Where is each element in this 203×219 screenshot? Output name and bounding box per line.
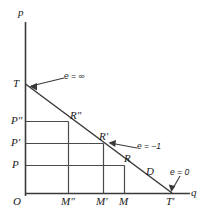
- origin-label: O: [13, 196, 21, 207]
- demand-curve-label: D: [146, 166, 154, 177]
- price-label-p: P: [12, 159, 19, 170]
- demand-curve-figure: p q O T T' D P″ P′ P M″ M′ M R″ R′ R e =…: [0, 0, 203, 219]
- point-label-r-double-prime: R″: [70, 110, 81, 121]
- curve-right-intercept-label: T': [166, 196, 174, 207]
- quantity-axis-label: q: [191, 187, 197, 198]
- price-label-p-double-prime: P″: [11, 115, 22, 126]
- annotation-elasticity-infinite: e = ∞: [64, 72, 84, 81]
- annotation-elasticity-unit: e = –1: [137, 142, 161, 151]
- quantity-label-m-double-prime: M″: [61, 196, 75, 207]
- price-label-p-prime: P′: [11, 137, 20, 148]
- point-label-r: R: [124, 153, 131, 164]
- annotation-elasticity-zero: e = 0: [170, 168, 189, 177]
- quantity-label-m-prime: M′: [96, 196, 108, 207]
- curve-top-intercept-label: T: [13, 78, 19, 89]
- diagram-canvas: [0, 0, 203, 219]
- quantity-label-m: M: [119, 196, 128, 207]
- point-label-r-prime: R′: [99, 131, 108, 142]
- price-axis-label: p: [18, 7, 24, 18]
